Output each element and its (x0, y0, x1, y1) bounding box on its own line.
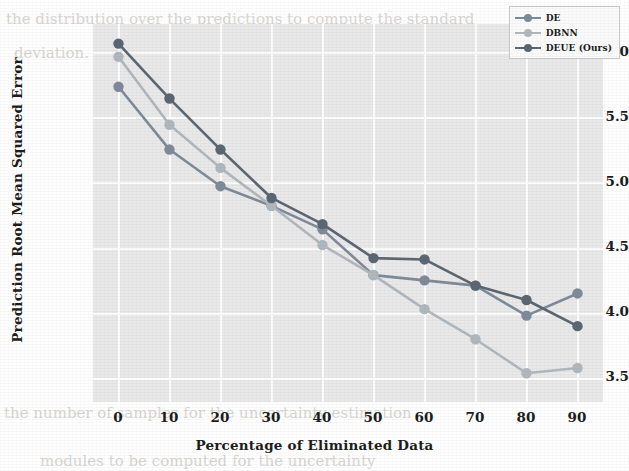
x-tick-label: 20 (200, 409, 240, 425)
x-tick-label: 0 (98, 409, 138, 425)
legend-marker-icon (524, 29, 532, 37)
x-tick-label: 80 (506, 409, 546, 425)
data-point (521, 310, 531, 320)
series-line-deue-ours (119, 44, 578, 327)
x-tick-label: 90 (557, 409, 597, 425)
x-tick-label: 50 (353, 409, 393, 425)
legend-swatch-icon (515, 42, 541, 54)
data-point (317, 240, 327, 250)
data-point (113, 82, 123, 92)
legend-swatch-icon (515, 12, 541, 24)
data-point (113, 52, 123, 62)
y-axis-label-wrapper: Prediction Root Mean Squared Error (6, 0, 28, 400)
data-point (521, 295, 531, 305)
plot-area (93, 24, 603, 402)
data-point (215, 163, 225, 173)
data-point (368, 253, 378, 263)
data-point (572, 321, 582, 331)
legend-label: DE (546, 13, 561, 23)
data-point (164, 120, 174, 130)
x-tick-label: 40 (302, 409, 342, 425)
series-plot (93, 24, 603, 402)
x-tick-label: 70 (455, 409, 495, 425)
x-tick-label: 60 (404, 409, 444, 425)
data-point (419, 254, 429, 264)
x-axis-label: Percentage of Eliminated Data (0, 437, 629, 453)
data-point (521, 368, 531, 378)
data-point (164, 93, 174, 103)
data-point (470, 280, 480, 290)
legend-entry-de[interactable]: DE (515, 11, 612, 24)
data-point (164, 144, 174, 154)
legend-marker-icon (524, 44, 532, 52)
data-point (470, 334, 480, 344)
legend-swatch-icon (515, 27, 541, 39)
legend-label: DBNN (546, 28, 578, 38)
data-point (572, 363, 582, 373)
data-point (215, 144, 225, 154)
legend: DE DBNN DEUE (Ours) (509, 6, 620, 59)
legend-label: DEUE (Ours) (546, 43, 612, 53)
series-line-dbnn (119, 57, 578, 374)
legend-marker-icon (524, 14, 532, 22)
legend-entry-dbnn[interactable]: DBNN (515, 26, 612, 39)
data-point (419, 304, 429, 314)
data-point (419, 275, 429, 285)
x-tick-label: 30 (251, 409, 291, 425)
legend-entry-deue[interactable]: DEUE (Ours) (515, 41, 612, 54)
data-point (266, 193, 276, 203)
data-point (215, 181, 225, 191)
y-axis-label: Prediction Root Mean Squared Error (9, 57, 25, 343)
data-point (317, 219, 327, 229)
data-point (368, 270, 378, 280)
x-tick-label: 10 (149, 409, 189, 425)
figure-canvas: 6.0 5.5 5.0 4.5 4.0 3.5 Prediction Root … (0, 0, 629, 471)
series-line-de (119, 87, 578, 316)
data-point (572, 288, 582, 298)
data-point (113, 38, 123, 48)
